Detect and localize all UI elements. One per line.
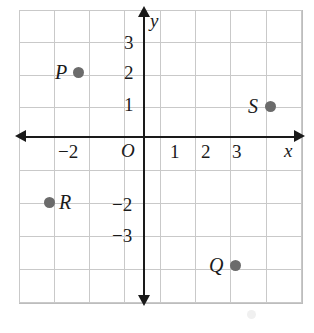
gridline-vertical bbox=[160, 10, 161, 303]
gridline-horizontal bbox=[19, 236, 302, 237]
y-tick-label-neg2: −2 bbox=[112, 195, 132, 214]
point-dot-r[interactable] bbox=[44, 197, 55, 208]
gridline-vertical bbox=[266, 10, 267, 303]
gridline-vertical bbox=[195, 10, 196, 303]
page-smudge bbox=[247, 310, 256, 319]
y-axis-up-arrow-icon bbox=[138, 6, 150, 17]
y-tick-label-1: 1 bbox=[124, 95, 134, 114]
x-axis-left-arrow-icon bbox=[15, 130, 26, 142]
origin-label: O bbox=[121, 141, 135, 160]
gridline-horizontal bbox=[19, 10, 302, 11]
point-dot-q[interactable] bbox=[230, 260, 241, 271]
y-tick-label-neg3: −3 bbox=[112, 226, 132, 245]
point-dot-s[interactable] bbox=[265, 101, 276, 112]
y-axis-line bbox=[143, 16, 145, 297]
y-axis-down-arrow-icon bbox=[138, 295, 150, 306]
gridline-horizontal bbox=[19, 107, 302, 108]
y-tick-label-2: 2 bbox=[124, 63, 134, 82]
point-label-s: S bbox=[248, 96, 258, 116]
coordinate-plane-figure: x y O −2 1 2 3 3 2 1 −2 −3 P S R Q bbox=[0, 0, 314, 333]
gridline-vertical bbox=[19, 10, 20, 303]
gridline-horizontal bbox=[19, 170, 302, 171]
gridline-horizontal bbox=[19, 302, 302, 303]
point-label-q: Q bbox=[209, 255, 223, 275]
y-tick-label-3: 3 bbox=[124, 33, 134, 52]
gridline-vertical bbox=[89, 10, 90, 303]
gridline-vertical bbox=[54, 10, 55, 303]
x-tick-label-2: 2 bbox=[201, 142, 211, 161]
point-label-p: P bbox=[55, 62, 67, 82]
x-axis-line bbox=[24, 136, 296, 138]
x-tick-label-1: 1 bbox=[170, 142, 180, 161]
gridline-horizontal bbox=[19, 42, 302, 43]
point-label-r: R bbox=[59, 192, 71, 212]
x-axis-right-arrow-icon bbox=[294, 130, 305, 142]
gridline-vertical bbox=[301, 10, 302, 303]
x-tick-label-3: 3 bbox=[232, 142, 242, 161]
gridline-vertical bbox=[230, 10, 231, 303]
x-tick-label-neg2: −2 bbox=[58, 142, 78, 161]
gridline-horizontal bbox=[19, 269, 302, 270]
y-axis-label: y bbox=[150, 11, 158, 30]
x-axis-label: x bbox=[284, 141, 292, 160]
point-dot-p[interactable] bbox=[73, 67, 84, 78]
